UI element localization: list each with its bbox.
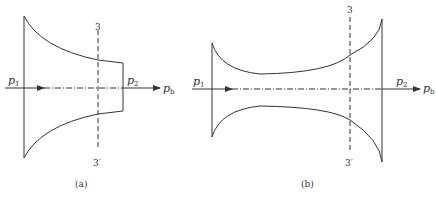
section-bottom-label-a: 3′ (93, 158, 101, 168)
labels-a: p1 p2 pb 3 3′ (a) (8, 22, 175, 189)
svg-text:pb: pb (163, 82, 175, 96)
upper-wall-a (24, 16, 123, 63)
svg-text:pb: pb (423, 82, 435, 96)
svg-text:p2: p2 (127, 74, 139, 88)
diagram-b (192, 17, 420, 162)
caption-a: (a) (75, 179, 87, 189)
section-top-label-a: 3 (95, 22, 101, 32)
nozzle-diagrams: p1 p2 pb 3 3′ (a) p1 p2 pb 3 3′ (b) (0, 0, 436, 197)
upper-wall-b (212, 19, 382, 74)
labels-b: p1 p2 pb 3 3′ (b) (193, 5, 435, 189)
caption-b: (b) (301, 179, 314, 189)
lower-wall-a (24, 111, 123, 158)
section-top-label-b: 3 (347, 5, 353, 15)
lower-wall-b (212, 106, 382, 162)
svg-text:p1: p1 (193, 75, 205, 89)
section-bottom-label-b: 3′ (345, 158, 353, 168)
svg-text:p2: p2 (396, 75, 408, 89)
svg-text:p1: p1 (8, 74, 20, 88)
